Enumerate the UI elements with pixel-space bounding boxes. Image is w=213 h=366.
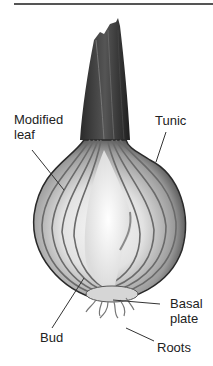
basal-plate: [86, 286, 138, 302]
label-modified-leaf-line2: leaf: [14, 127, 63, 142]
label-modified-leaf: Modified leaf: [14, 112, 63, 142]
label-bud: Bud: [40, 330, 63, 345]
label-basal-plate-line2: plate: [170, 311, 203, 326]
label-roots: Roots: [157, 340, 191, 355]
label-basal-plate: Basal plate: [170, 296, 203, 326]
label-modified-leaf-line1: Modified: [14, 112, 63, 127]
label-basal-plate-line1: Basal: [170, 296, 203, 311]
label-tunic: Tunic: [155, 113, 186, 128]
